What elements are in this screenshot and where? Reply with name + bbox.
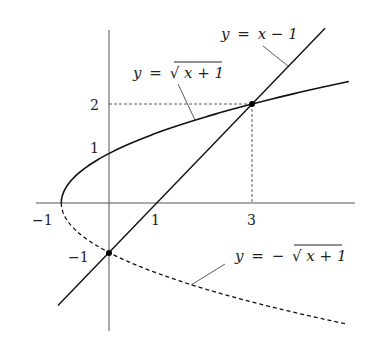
leader-line-upper-label bbox=[178, 84, 195, 120]
function-plot: −1 1 3 2 1 −1 y = x − 1 y = √ x + 1 bbox=[0, 0, 371, 348]
intersection-point-3-2 bbox=[249, 101, 255, 107]
leader-line-lower-label bbox=[191, 264, 225, 285]
svg-text:y = √: y = √ x + 1 bbox=[132, 64, 224, 82]
upper-root-curve bbox=[61, 81, 349, 203]
x-tick-label-neg1: −1 bbox=[32, 212, 53, 228]
x-tick-label-3: 3 bbox=[247, 212, 256, 228]
y-tick-label-2: 2 bbox=[90, 97, 99, 113]
leader-line-line-label bbox=[263, 46, 288, 66]
line-equation-label: y = x − 1 bbox=[220, 25, 298, 43]
lower-root-equation-label: y = − √ x + 1 bbox=[234, 245, 346, 265]
y-tick-label-1: 1 bbox=[90, 140, 99, 156]
diagram-canvas: −1 1 3 2 1 −1 y = x − 1 y = √ x + 1 bbox=[0, 0, 371, 348]
upper-root-equation-label: y = √ x + 1 bbox=[132, 62, 224, 82]
y-tick-label-neg1: −1 bbox=[68, 249, 89, 265]
x-tick-label-1: 1 bbox=[151, 212, 160, 228]
intersection-point-0-neg1 bbox=[106, 250, 112, 256]
svg-text:y = x − 1: y = x − 1 bbox=[220, 25, 298, 43]
svg-text:y = −: y = − √ x + 1 bbox=[234, 247, 346, 265]
